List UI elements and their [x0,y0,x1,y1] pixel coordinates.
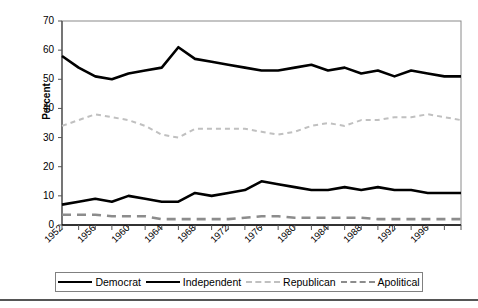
legend-swatch-democrat [58,281,92,283]
chart-legend: Democrat Independent Republican Apolitic… [55,272,423,292]
legend-swatch-independent [146,281,180,283]
legend-label-democrat: Democrat [95,276,141,288]
legend-item-independent: Independent [146,276,241,288]
legend-item-democrat: Democrat [58,276,141,288]
legend-label-independent: Independent [183,276,241,288]
legend-label-republican: Republican [283,276,336,288]
legend-item-apolitical: Apolitical [341,276,420,288]
bottom-divider [0,299,478,301]
legend-swatch-republican [246,281,280,283]
series-line-democrat [62,47,461,79]
plot-frame [62,21,461,225]
series-line-republican [62,114,461,137]
chart-figure: Percent 706050403020100 1952195619601964… [0,0,478,308]
legend-label-apolitical: Apolitical [378,276,420,288]
legend-item-republican: Republican [246,276,336,288]
series-line-apolitical [62,215,461,219]
legend-swatch-apolitical [341,281,375,283]
plot-area [0,0,478,308]
series-line-independent [62,181,461,204]
